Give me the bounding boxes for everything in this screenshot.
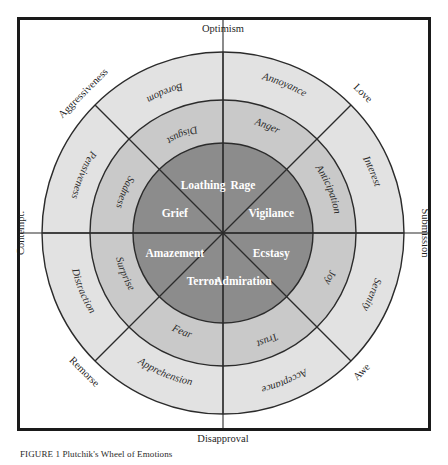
inner-label-grief: Grief xyxy=(162,207,188,219)
dyad-label-submission: Submission xyxy=(420,208,431,258)
inner-label-admiration: Admiration xyxy=(214,275,272,287)
inner-label-amazement: Amazement xyxy=(145,247,204,259)
dyad-label-contempt: Contempt. xyxy=(15,211,26,255)
dyad-label-love: Love xyxy=(352,81,375,104)
plutchik-wheel: EcstasyAdmirationTerrorAmazementGriefLoa… xyxy=(0,0,448,465)
inner-label-terror: Terror xyxy=(187,275,220,287)
inner-label-vigilance: Vigilance xyxy=(248,207,294,220)
inner-label-rage: Rage xyxy=(231,179,256,192)
dyad-label-disapproval: Disapproval xyxy=(197,433,248,444)
dyad-label-awe: Awe xyxy=(351,361,372,382)
figure-caption: FIGURE 1 Plutchik's Wheel of Emotions xyxy=(20,448,430,460)
inner-label-loathing: Loathing xyxy=(181,179,226,192)
figure-page: EcstasyAdmirationTerrorAmazementGriefLoa… xyxy=(0,0,448,465)
inner-label-ecstasy: Ecstasy xyxy=(253,247,290,260)
dyad-label-optimism: Optimism xyxy=(202,23,244,34)
